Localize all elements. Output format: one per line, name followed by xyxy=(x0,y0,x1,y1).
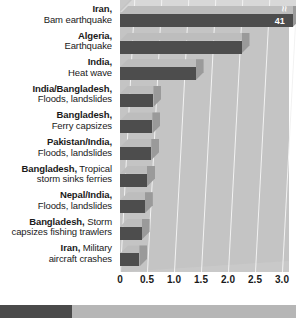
bar-row xyxy=(120,59,204,80)
category-place: Nepal/India, xyxy=(60,189,112,200)
bar-front-face xyxy=(120,14,293,27)
category-label: India/Bangladesh,Floods, landslides xyxy=(0,84,112,105)
category-place: Iran, xyxy=(61,242,81,253)
footer-strip xyxy=(0,305,296,318)
category-desc: Ferry capsizes xyxy=(52,120,112,131)
bar-side-face xyxy=(196,59,204,80)
bar-side-face xyxy=(293,6,296,27)
category-desc: Floods, landslides xyxy=(38,147,112,158)
tick-label-1.0: 1.0 xyxy=(167,274,181,285)
bar-side-face xyxy=(153,86,161,107)
x-axis-ticks: 00.51.01.52.02.53.0 xyxy=(0,274,296,290)
category-label-column: Iran,Bam earthquakeAlgeria,EarthquakeInd… xyxy=(0,0,116,272)
bar-side-face xyxy=(152,112,160,133)
category-place: India/Bangladesh, xyxy=(32,83,112,94)
bar-front-face xyxy=(120,41,242,54)
bar-side-face xyxy=(151,139,159,160)
tick-label-0: 0 xyxy=(117,274,123,285)
bar-side-face xyxy=(139,245,147,266)
bar-row xyxy=(120,245,147,266)
bar-front-face xyxy=(120,94,153,107)
bar-row: 41≈ xyxy=(120,6,296,27)
category-place: Bangladesh, xyxy=(29,216,84,227)
category-place: Algeria, xyxy=(78,30,112,41)
tick-label-0.5: 0.5 xyxy=(140,274,154,285)
category-desc: Floods, landslides xyxy=(38,93,112,104)
bar-front-face xyxy=(120,253,139,266)
bar-front-face xyxy=(120,200,145,213)
category-label: Iran,Bam earthquake xyxy=(0,4,112,25)
bar-front-face xyxy=(120,174,147,187)
bar-front-face xyxy=(120,120,152,133)
category-desc: Earthquake xyxy=(64,40,112,51)
bar-row xyxy=(120,112,160,133)
category-desc: Floods, landslides xyxy=(38,200,112,211)
bar-row xyxy=(120,139,159,160)
category-label: Bangladesh,Ferry capsizes xyxy=(0,110,112,131)
category-place: Pakistan/India, xyxy=(47,136,112,147)
footer-dark-block xyxy=(0,305,72,318)
category-desc: Tropical xyxy=(77,163,112,174)
bar-side-face xyxy=(145,192,153,213)
bar-row xyxy=(120,219,150,240)
tick-label-1.5: 1.5 xyxy=(194,274,208,285)
category-desc: Military xyxy=(80,242,112,253)
tick-label-3.0: 3.0 xyxy=(275,274,289,285)
category-place: Bangladesh, xyxy=(22,163,77,174)
tick-label-2.0: 2.0 xyxy=(221,274,235,285)
category-desc2: aircraft crashes xyxy=(49,253,112,264)
bar-top-face xyxy=(120,6,296,14)
bar-row xyxy=(120,192,153,213)
axis-break-icon: ≈ xyxy=(279,6,289,12)
category-label: India,Heat wave xyxy=(0,57,112,78)
bar-side-face xyxy=(242,33,250,54)
bar-row xyxy=(120,166,155,187)
category-desc2: capsizes fishing trawlers xyxy=(12,226,112,237)
category-place: Bangladesh, xyxy=(57,109,112,120)
tick-label-2.5: 2.5 xyxy=(248,274,262,285)
bar-side-face xyxy=(147,166,155,187)
category-desc2: storm sinks ferries xyxy=(37,173,112,184)
category-label: Bangladesh, Stormcapsizes fishing trawle… xyxy=(0,217,112,238)
bar-front-face xyxy=(120,67,196,80)
bar-top-face xyxy=(120,59,204,67)
bar-top-face xyxy=(120,33,250,41)
category-desc: Storm xyxy=(85,216,112,227)
category-label: Bangladesh, Tropicalstorm sinks ferries xyxy=(0,164,112,185)
category-place: India, xyxy=(88,56,112,67)
category-desc: Heat wave xyxy=(68,67,112,78)
disaster-death-toll-bar-chart: Iran,Bam earthquakeAlgeria,EarthquakeInd… xyxy=(0,0,296,318)
bar-row xyxy=(120,86,161,107)
bar-side-face xyxy=(142,219,150,240)
category-label: Nepal/India,Floods, landslides xyxy=(0,190,112,211)
category-label: Pakistan/India,Floods, landslides xyxy=(0,137,112,158)
footer-light-block xyxy=(72,305,296,318)
bar-value-label: 41 xyxy=(273,15,287,27)
bar-row xyxy=(120,33,250,54)
category-desc: Bam earthquake xyxy=(44,14,112,25)
bar-front-face xyxy=(120,147,151,160)
category-label: Algeria,Earthquake xyxy=(0,31,112,52)
category-place: Iran, xyxy=(92,3,112,14)
bar-front-face xyxy=(120,227,142,240)
category-label: Iran, Militaryaircraft crashes xyxy=(0,243,112,264)
